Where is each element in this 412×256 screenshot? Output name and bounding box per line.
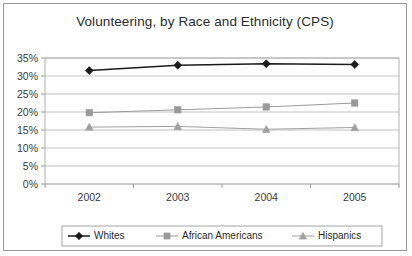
gridlines xyxy=(45,58,399,184)
y-axis-tick-label: 10% xyxy=(17,142,38,154)
series-african-americans xyxy=(86,100,358,116)
data-point-square xyxy=(86,110,92,116)
data-point-diamond xyxy=(85,67,93,75)
x-axis-tick-label: 2002 xyxy=(78,191,102,203)
legend-label: Hispanics xyxy=(318,230,361,241)
legend-label: African Americans xyxy=(182,230,263,241)
line-chart: 0%5%10%15%20%25%30%35% 2002200320042005 … xyxy=(4,4,408,252)
series-line xyxy=(89,126,355,129)
data-point-square xyxy=(263,104,269,110)
series-line xyxy=(89,64,355,71)
series-line xyxy=(89,103,355,113)
series-whites xyxy=(85,60,359,75)
data-series xyxy=(85,60,359,133)
data-point-diamond xyxy=(174,61,182,69)
y-axis-tick-label: 25% xyxy=(17,88,38,100)
data-point-square xyxy=(164,233,170,239)
chart-frame: Volunteering, by Race and Ethnicity (CPS… xyxy=(3,3,407,251)
y-axis-tick-label: 15% xyxy=(17,124,38,136)
axis-lines xyxy=(41,58,399,188)
y-axis-tick-label: 20% xyxy=(17,106,38,118)
y-axis-tick-labels: 0%5%10%15%20%25%30%35% xyxy=(17,52,38,190)
x-axis-tick-label: 2004 xyxy=(255,191,279,203)
x-axis-tick-label: 2005 xyxy=(343,191,367,203)
data-point-diamond xyxy=(351,60,359,68)
x-axis-tick-labels: 2002200320042005 xyxy=(78,191,367,203)
y-axis-tick-label: 35% xyxy=(17,52,38,64)
legend-label: Whites xyxy=(94,230,125,241)
data-point-diamond xyxy=(262,60,270,68)
series-hispanics xyxy=(85,123,358,133)
chart-legend[interactable]: WhitesAfrican AmericansHispanics xyxy=(62,226,382,246)
x-axis-tick-label: 2003 xyxy=(166,191,190,203)
y-axis-tick-label: 30% xyxy=(17,70,38,82)
data-point-square xyxy=(352,100,358,106)
y-axis-tick-label: 5% xyxy=(23,160,38,172)
plot-area-border xyxy=(45,58,399,184)
y-axis-tick-label: 0% xyxy=(23,178,38,190)
data-point-square xyxy=(175,107,181,113)
